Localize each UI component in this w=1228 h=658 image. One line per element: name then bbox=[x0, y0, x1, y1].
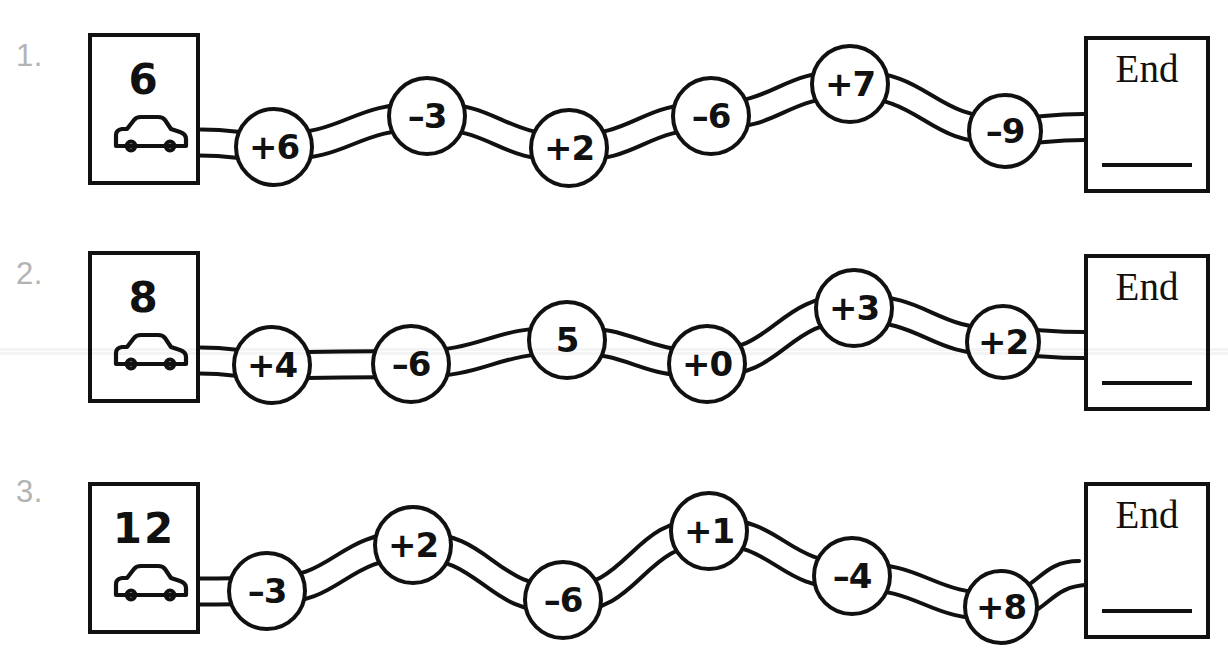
car-icon-wrap bbox=[96, 562, 192, 602]
operation-label: +6 bbox=[249, 130, 299, 164]
operation-label: +1 bbox=[684, 514, 734, 548]
operation-label: +8 bbox=[976, 590, 1026, 624]
operation-label: +7 bbox=[825, 67, 875, 101]
problem-number: 1. bbox=[16, 40, 80, 71]
operation-label: +0 bbox=[682, 347, 732, 381]
operation-label: –6 bbox=[692, 99, 731, 133]
operation-circle[interactable]: +2 bbox=[529, 108, 609, 188]
operation-circle[interactable]: +0 bbox=[667, 324, 747, 404]
operation-label: –3 bbox=[248, 574, 287, 608]
problem-row: 1.6+6–3+2–6+7–9End bbox=[0, 0, 1228, 218]
operation-circle[interactable]: –4 bbox=[812, 536, 892, 616]
answer-blank[interactable] bbox=[1102, 609, 1192, 613]
operation-label: +4 bbox=[247, 348, 297, 382]
end-box: End bbox=[1084, 36, 1210, 193]
end-label: End bbox=[1116, 267, 1179, 306]
operation-label: +2 bbox=[978, 325, 1028, 359]
operation-circle[interactable]: +2 bbox=[965, 304, 1041, 380]
problem-row: 2.8+4–65+0+3+2End bbox=[0, 218, 1228, 436]
operation-circle[interactable]: 5 bbox=[527, 300, 607, 380]
operation-label: –6 bbox=[392, 347, 431, 381]
start-box: 6 bbox=[88, 33, 200, 185]
worksheet-page: 1.6+6–3+2–6+7–9End2.8+4–65+0+3+2End3.12–… bbox=[0, 0, 1228, 658]
operation-circle[interactable]: +6 bbox=[234, 107, 314, 187]
end-box: End bbox=[1084, 482, 1210, 639]
problem-number: 2. bbox=[16, 258, 80, 289]
operation-circle[interactable]: +8 bbox=[963, 569, 1039, 645]
operation-circle[interactable]: –9 bbox=[967, 93, 1043, 169]
answer-blank[interactable] bbox=[1102, 381, 1192, 385]
start-value: 6 bbox=[128, 59, 159, 101]
car-icon bbox=[96, 331, 192, 371]
operation-circle[interactable]: –6 bbox=[371, 324, 451, 404]
end-label: End bbox=[1116, 49, 1179, 88]
operation-label: –9 bbox=[986, 114, 1025, 148]
problem-number: 3. bbox=[16, 476, 80, 507]
start-value: 12 bbox=[113, 508, 175, 550]
operation-label: +2 bbox=[544, 131, 594, 165]
problem-row: 3.12–3+2–6+1–4+8End bbox=[0, 436, 1228, 654]
operation-label: +3 bbox=[829, 291, 879, 325]
start-value: 8 bbox=[128, 277, 159, 319]
operation-circle[interactable]: –6 bbox=[523, 560, 603, 640]
operation-label: –6 bbox=[544, 583, 583, 617]
operation-circle[interactable]: +2 bbox=[373, 505, 453, 585]
operation-label: –4 bbox=[833, 559, 872, 593]
operation-circle[interactable]: +1 bbox=[669, 491, 749, 571]
start-box: 8 bbox=[88, 251, 200, 403]
operation-label: 5 bbox=[556, 323, 579, 357]
operation-label: –3 bbox=[408, 99, 447, 133]
end-box: End bbox=[1084, 254, 1210, 411]
car-icon-wrap bbox=[96, 113, 192, 153]
operation-circle[interactable]: +7 bbox=[810, 44, 890, 124]
car-icon-wrap bbox=[96, 331, 192, 371]
operation-circle[interactable]: –3 bbox=[387, 76, 467, 156]
operation-circle[interactable]: –3 bbox=[227, 551, 307, 631]
answer-blank[interactable] bbox=[1102, 163, 1192, 167]
operation-circle[interactable]: +3 bbox=[814, 268, 894, 348]
operation-label: +2 bbox=[388, 528, 438, 562]
start-box: 12 bbox=[88, 482, 200, 634]
car-icon bbox=[96, 113, 192, 153]
operation-circle[interactable]: –6 bbox=[671, 76, 751, 156]
operation-circle[interactable]: +4 bbox=[232, 325, 312, 405]
end-label: End bbox=[1116, 495, 1179, 534]
car-icon bbox=[96, 562, 192, 602]
